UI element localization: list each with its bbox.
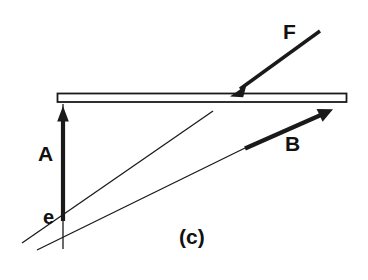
- vertex-e-label: e: [43, 207, 54, 227]
- vector-b-label: B: [285, 133, 300, 154]
- plate-surface: [58, 94, 347, 103]
- ray-line-shallow: [37, 148, 245, 250]
- panel-label: (c): [179, 226, 205, 247]
- vector-a-arrow: [57, 106, 69, 221]
- vector-a-label: A: [38, 143, 53, 164]
- figure-panel-c: A B F e (c): [0, 0, 368, 280]
- force-f-arrow: [230, 31, 320, 97]
- force-f-label: F: [283, 21, 296, 42]
